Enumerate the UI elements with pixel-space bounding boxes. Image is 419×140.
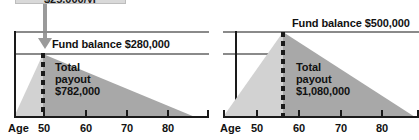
payout-title-line1-left: Total — [55, 62, 80, 74]
x-tick-label-50-left: 50 — [36, 122, 52, 134]
x-tick-label-50-right: 50 — [249, 122, 265, 134]
x-tick-label-60-right: 60 — [291, 122, 307, 134]
payout-amount-left: $782,000 — [55, 86, 100, 98]
x-axis-name-right: Age — [220, 122, 241, 134]
accumulation-area-right — [223, 32, 283, 117]
x-tick-70-left — [126, 110, 128, 117]
retirement-age-marker-right — [281, 32, 285, 117]
x-tick-80-left — [167, 110, 169, 117]
x-tick-70-right — [340, 110, 342, 117]
x-tick-label-60-left: 60 — [78, 122, 94, 134]
chart-panel-right: $45,000/yr Fund balance $500,000 Total p… — [209, 0, 419, 140]
fund-balance-label-left: Fund balance $280,000 — [52, 38, 170, 50]
payout-amount-right: $1,080,000 — [296, 86, 350, 98]
x-tick-label-80-right: 80 — [374, 122, 390, 134]
retirement-payout-comparison-chart: $25,000/yr Fund balance $280,000 Total p… — [0, 0, 419, 140]
x-tick-60-left — [85, 110, 87, 117]
x-tick-60-right — [298, 110, 300, 117]
x-tick-start-left — [14, 110, 16, 117]
x-tick-start-right — [223, 110, 225, 117]
accumulation-area-left — [14, 54, 43, 117]
fund-balance-label-right: Fund balance $500,000 — [292, 17, 410, 29]
chart-panel-left: $25,000/yr Fund balance $280,000 Total p… — [0, 0, 209, 140]
payout-wedge-left — [0, 0, 209, 140]
payout-title-line2-left: payout — [55, 74, 90, 86]
retirement-age-marker-left — [41, 53, 45, 117]
payout-title-line2-right: payout — [296, 74, 331, 86]
x-axis-right — [223, 116, 419, 118]
x-tick-label-80-left: 80 — [160, 122, 176, 134]
payout-title-line1-right: Total — [296, 62, 321, 74]
x-tick-80-right — [381, 110, 383, 117]
x-tick-label-70-left: 70 — [119, 122, 135, 134]
x-axis-name-left: Age — [8, 122, 29, 134]
x-tick-50-right — [256, 110, 258, 117]
x-tick-label-70-right: 70 — [333, 122, 349, 134]
x-tick-50-left — [43, 110, 45, 117]
